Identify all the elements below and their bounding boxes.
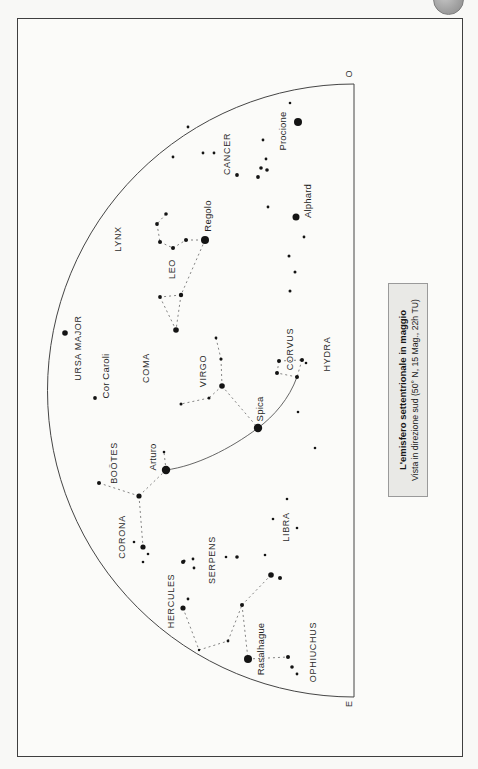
- book-page: O E L'emisfero settentrionale in maggio …: [0, 0, 478, 769]
- star-dot: [162, 466, 170, 474]
- star-dot: [155, 222, 159, 226]
- star-dot: [267, 206, 270, 209]
- constellation-figure-line: [199, 641, 228, 650]
- star-dot: [180, 605, 185, 610]
- star-dot: [314, 447, 317, 450]
- constellation-figure-line: [99, 483, 139, 496]
- star-dot: [300, 358, 304, 362]
- star-dot: [296, 527, 299, 530]
- star-dot: [93, 396, 97, 400]
- constellation-figure-line: [157, 214, 166, 224]
- star-dot: [265, 158, 268, 161]
- constellation-figure-line: [242, 605, 248, 659]
- star-dot: [97, 481, 101, 485]
- star-dot: [305, 362, 308, 365]
- star-dot: [198, 649, 200, 651]
- star-dot: [179, 293, 183, 297]
- star-dot: [294, 118, 302, 126]
- constellation-figure-line: [277, 373, 297, 377]
- constellation-figure-line: [173, 240, 186, 248]
- star-dot: [265, 168, 269, 172]
- star-dot: [227, 640, 230, 643]
- constellation-figure-line: [248, 657, 288, 659]
- east-label: E: [343, 694, 355, 714]
- star-dot: [62, 330, 68, 336]
- caption-title: L'emisfero settentrionale in maggio: [397, 310, 408, 470]
- star-dot: [213, 152, 216, 155]
- star-dot: [219, 383, 225, 389]
- star-dot: [235, 555, 239, 559]
- west-label: O: [343, 64, 355, 84]
- constellation-figure-line: [139, 470, 166, 496]
- constellation-figure-line: [242, 575, 271, 605]
- star-dot: [219, 357, 222, 360]
- caption-subtitle: Vista in direzione sud (50° N, 15 Mag., …: [410, 299, 420, 481]
- star-dot: [254, 424, 262, 432]
- star-dot: [295, 375, 299, 379]
- star-dot: [297, 411, 300, 414]
- star-dot: [184, 238, 188, 242]
- star-dot: [142, 561, 145, 564]
- star-dot: [171, 246, 175, 250]
- constellation-figure-line: [183, 608, 199, 650]
- star-dot: [262, 139, 265, 142]
- star-dot: [275, 371, 279, 375]
- star-dot: [173, 327, 179, 333]
- star-dot: [133, 541, 136, 544]
- sky-dome-arc: [48, 84, 355, 697]
- constellation-figure-line: [157, 224, 160, 242]
- star-dot: [259, 166, 263, 170]
- star-dot: [286, 498, 289, 501]
- star-dot: [264, 554, 267, 557]
- star-dot: [244, 655, 252, 663]
- constellation-figure-line: [181, 240, 205, 295]
- constellation-figure-line: [181, 398, 209, 404]
- star-dot: [163, 451, 166, 454]
- star-dot: [201, 236, 209, 244]
- star-dot: [294, 271, 297, 274]
- star-dot: [215, 337, 218, 340]
- star-dot: [187, 598, 190, 601]
- star-dot: [158, 240, 162, 244]
- star-dot: [268, 572, 274, 578]
- star-dot: [140, 544, 145, 549]
- star-dot: [187, 126, 190, 129]
- star-dot: [296, 673, 299, 676]
- star-dot: [193, 567, 196, 570]
- star-dot: [192, 558, 195, 561]
- constellation-figure-line: [176, 295, 181, 330]
- star-dot: [293, 214, 300, 221]
- star-dot: [202, 152, 205, 155]
- star-dot: [303, 236, 306, 239]
- star-dot: [289, 290, 292, 293]
- star-dot: [286, 655, 290, 659]
- constellation-figure-line: [160, 297, 176, 330]
- constellation-figure-line: [160, 242, 173, 248]
- star-dot: [290, 665, 294, 669]
- constellation-figure-line: [297, 360, 302, 377]
- star-dot: [158, 295, 162, 299]
- star-dot: [181, 560, 185, 564]
- star-dot: [225, 556, 228, 559]
- constellation-figure-line: [279, 360, 302, 361]
- star-dot: [289, 102, 292, 105]
- caption-box: L'emisfero settentrionale in maggio Vist…: [388, 283, 428, 497]
- star-dot: [277, 359, 281, 363]
- star-dot: [164, 212, 168, 216]
- star-dot: [208, 397, 211, 400]
- star-dot: [147, 553, 150, 556]
- star-dot: [240, 603, 244, 607]
- star-dot: [180, 403, 183, 406]
- star-dot: [235, 173, 239, 177]
- star-dot: [272, 518, 275, 521]
- star-dot: [172, 156, 175, 159]
- guide-line-arc: [166, 377, 297, 470]
- constellation-figure-line: [221, 359, 222, 386]
- constellation-figure-line: [216, 338, 221, 359]
- constellation-figure-line: [222, 386, 258, 428]
- constellation-figure-line: [160, 295, 181, 297]
- constellation-figure-line: [139, 496, 143, 547]
- star-dot: [278, 576, 282, 580]
- star-dot: [256, 175, 260, 179]
- constellation-figure-line: [228, 605, 242, 641]
